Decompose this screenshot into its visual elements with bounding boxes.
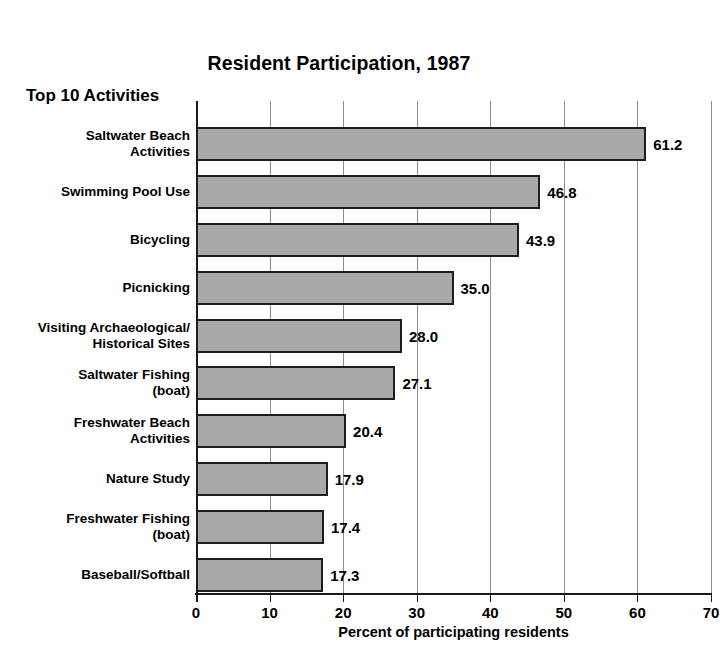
tick-30 <box>417 593 418 602</box>
bar-row: 35.0 <box>196 271 711 305</box>
x-tick-label: 40 <box>482 604 499 621</box>
bar-value-label: 46.8 <box>547 183 576 200</box>
category-label: Visiting Archaeological/ Historical Site… <box>0 320 190 352</box>
x-axis-title: Percent of participating residents <box>196 624 711 640</box>
x-axis-line <box>195 593 712 595</box>
bar <box>196 366 395 400</box>
tick-20 <box>343 593 344 602</box>
category-label: Freshwater Beach Activities <box>0 415 190 447</box>
bar-value-label: 20.4 <box>353 423 382 440</box>
bar <box>196 319 402 353</box>
tick-0 <box>196 593 198 602</box>
tick-60 <box>637 593 638 602</box>
bar-value-label: 43.9 <box>526 231 555 248</box>
chart-title: Resident Participation, 1987 <box>0 52 728 75</box>
category-label: Swimming Pool Use <box>0 184 190 200</box>
x-tick-label: 10 <box>261 604 278 621</box>
bar <box>196 414 346 448</box>
bar-value-label: 17.4 <box>331 519 360 536</box>
bar <box>196 462 328 496</box>
plot-area: 010203040506070 61.246.843.935.028.027.1… <box>196 101 711 593</box>
bar-row: 17.9 <box>196 462 711 496</box>
bar <box>196 175 540 209</box>
bar-row: 27.1 <box>196 366 711 400</box>
x-tick-label: 60 <box>629 604 646 621</box>
bar-row: 43.9 <box>196 223 711 257</box>
bar-value-label: 28.0 <box>409 327 438 344</box>
bar-value-label: 27.1 <box>402 375 431 392</box>
category-label: Nature Study <box>0 471 190 487</box>
bar <box>196 271 454 305</box>
bar-value-label: 61.2 <box>653 136 682 153</box>
bar-row: 46.8 <box>196 175 711 209</box>
bar-row: 17.3 <box>196 558 711 592</box>
x-tick-label: 30 <box>408 604 425 621</box>
bar-row: 20.4 <box>196 414 711 448</box>
x-tick-label: 50 <box>556 604 573 621</box>
category-label-column: Saltwater Beach ActivitiesSwimming Pool … <box>0 101 190 593</box>
bar <box>196 223 519 257</box>
gridline-70 <box>711 101 712 593</box>
category-label: Baseball/Softball <box>0 567 190 583</box>
category-label: Saltwater Fishing (boat) <box>0 367 190 399</box>
category-label: Picnicking <box>0 280 190 296</box>
bar-value-label: 17.3 <box>330 567 359 584</box>
bar-value-label: 35.0 <box>461 279 490 296</box>
bar <box>196 558 323 592</box>
bar-chart: Resident Participation, 1987 Top 10 Acti… <box>0 0 728 656</box>
category-label: Freshwater Fishing (boat) <box>0 511 190 543</box>
bar-row: 17.4 <box>196 510 711 544</box>
tick-70 <box>711 593 712 602</box>
bar-value-label: 17.9 <box>335 471 364 488</box>
bar-row: 28.0 <box>196 319 711 353</box>
bar-row: 61.2 <box>196 127 711 161</box>
bar <box>196 510 324 544</box>
x-tick-label: 20 <box>335 604 352 621</box>
category-label: Bicycling <box>0 232 190 248</box>
tick-10 <box>270 593 271 602</box>
tick-50 <box>564 593 565 602</box>
bar <box>196 127 646 161</box>
x-tick-label: 70 <box>703 604 720 621</box>
x-tick-label: 0 <box>192 604 200 621</box>
category-label: Saltwater Beach Activities <box>0 128 190 160</box>
tick-40 <box>490 593 491 602</box>
